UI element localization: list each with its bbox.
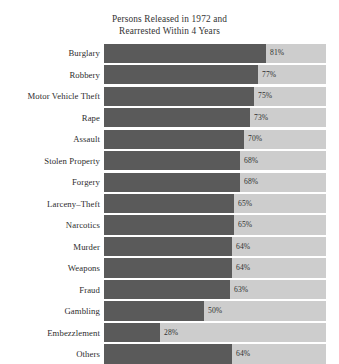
- bar-row: Murder64%: [0, 236, 339, 257]
- bar-fill: [104, 237, 232, 256]
- bar-category-label: Gambling: [0, 306, 104, 316]
- bar-category-label: Burglary: [0, 48, 104, 58]
- bar-track: 73%: [104, 108, 326, 127]
- bar-track: 70%: [104, 130, 326, 149]
- bar-track: 75%: [104, 87, 326, 106]
- bar-value-label: 75%: [258, 92, 272, 100]
- bar-category-label: Motor Vehicle Theft: [0, 91, 104, 101]
- bar-fill: [104, 194, 234, 213]
- bar-track: 65%: [104, 215, 326, 234]
- bar-row: Others64%: [0, 344, 339, 364]
- bar-row: Gambling50%: [0, 301, 339, 322]
- bar-value-label: 50%: [208, 307, 222, 315]
- bar-track: 68%: [104, 151, 326, 170]
- bar-category-label: Murder: [0, 242, 104, 252]
- bar-value-label: 68%: [244, 157, 258, 165]
- bar-row: Narcotics65%: [0, 215, 339, 236]
- bar-row: Forgery68%: [0, 172, 339, 193]
- bar-fill: [104, 301, 204, 320]
- chart-title-line-2: Rearrested Within 4 Years: [0, 26, 339, 38]
- bar-row: Weapons64%: [0, 258, 339, 279]
- page-header-artifact: [80, 0, 260, 4]
- bar-fill: [104, 108, 250, 127]
- bar-track: 68%: [104, 173, 326, 192]
- bar-fill: [104, 344, 232, 363]
- bar-value-label: 64%: [236, 264, 250, 272]
- bar-value-label: 77%: [262, 71, 276, 79]
- bar-value-label: 64%: [236, 350, 250, 358]
- bar-track: 64%: [104, 237, 326, 256]
- bar-row: Assault70%: [0, 129, 339, 150]
- bar-category-label: Weapons: [0, 263, 104, 273]
- bar-row: Embezzlement28%: [0, 322, 339, 343]
- bar-chart-plot: Burglary81%Robbery77%Motor Vehicle Theft…: [0, 43, 339, 364]
- bar-category-label: Others: [0, 349, 104, 359]
- bar-category-label: Embezzlement: [0, 328, 104, 338]
- chart-title-line-1: Persons Released in 1972 and: [0, 14, 339, 26]
- bar-value-label: 28%: [164, 329, 178, 337]
- bar-row: Rape73%: [0, 107, 339, 128]
- bar-fill: [104, 258, 232, 277]
- bar-track: 64%: [104, 344, 326, 363]
- bar-fill: [104, 173, 240, 192]
- chart-title: Persons Released in 1972 and Rearrested …: [0, 14, 339, 37]
- bar-fill: [104, 323, 160, 342]
- bar-row: Motor Vehicle Theft75%: [0, 86, 339, 107]
- bar-value-label: 70%: [248, 135, 262, 143]
- bar-track: 65%: [104, 194, 326, 213]
- bar-row: Fraud63%: [0, 279, 339, 300]
- bar-category-label: Forgery: [0, 177, 104, 187]
- bar-track: 50%: [104, 301, 326, 320]
- bar-category-label: Stolen Property: [0, 156, 104, 166]
- bar-track: 64%: [104, 258, 326, 277]
- bar-fill: [104, 65, 258, 84]
- bar-category-label: Rape: [0, 113, 104, 123]
- bar-row: Stolen Property68%: [0, 150, 339, 171]
- bar-category-label: Fraud: [0, 285, 104, 295]
- bar-value-label: 73%: [254, 114, 268, 122]
- bar-value-label: 65%: [238, 200, 252, 208]
- bar-row: Larceny–Theft65%: [0, 193, 339, 214]
- bar-category-label: Larceny–Theft: [0, 199, 104, 209]
- bar-fill: [104, 130, 244, 149]
- bar-value-label: 65%: [238, 221, 252, 229]
- bar-value-label: 81%: [270, 49, 284, 57]
- bar-value-label: 63%: [234, 286, 248, 294]
- bar-category-label: Robbery: [0, 70, 104, 80]
- bar-fill: [104, 215, 234, 234]
- bar-fill: [104, 151, 240, 170]
- bar-fill: [104, 280, 230, 299]
- bar-track: 77%: [104, 65, 326, 84]
- bar-track: 28%: [104, 323, 326, 342]
- bar-fill: [104, 87, 254, 106]
- bar-category-label: Narcotics: [0, 220, 104, 230]
- bar-row: Burglary81%: [0, 43, 339, 64]
- bar-fill: [104, 44, 266, 63]
- bar-track: 63%: [104, 280, 326, 299]
- bar-value-label: 64%: [236, 243, 250, 251]
- bar-category-label: Assault: [0, 134, 104, 144]
- bar-row: Robbery77%: [0, 64, 339, 85]
- bar-track: 81%: [104, 44, 326, 63]
- bar-value-label: 68%: [244, 178, 258, 186]
